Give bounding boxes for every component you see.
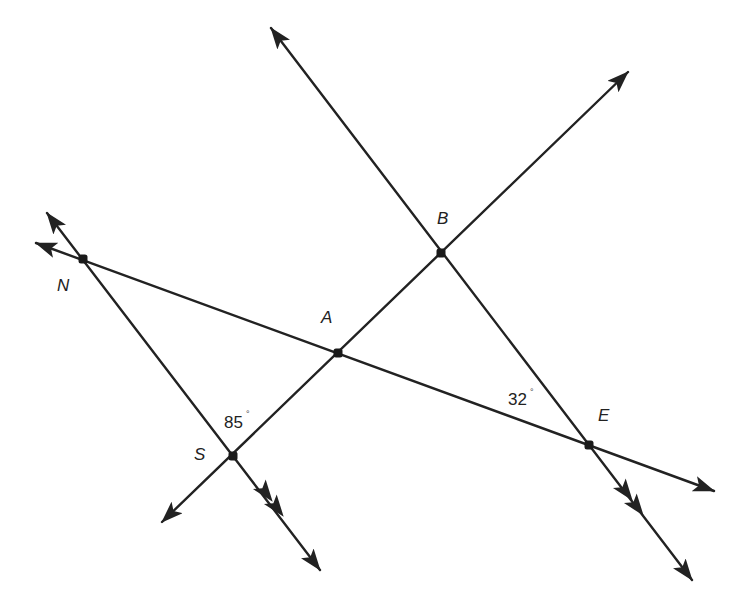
parallel-marks-NS [253, 479, 290, 521]
point-N [79, 255, 88, 264]
label-B: B [437, 209, 448, 228]
line-NE [36, 243, 714, 491]
point-B [437, 249, 446, 258]
point-A [334, 349, 343, 358]
label-E: E [598, 406, 610, 425]
line-NS [47, 213, 320, 570]
label-A: A [320, 308, 332, 327]
angle-label-85: 85 [224, 413, 243, 432]
point-S [229, 452, 238, 461]
label-S: S [194, 445, 206, 464]
point-E [585, 441, 594, 450]
label-N: N [57, 276, 70, 295]
geometry-diagram: N A B S E 85 ° 32 ° [0, 0, 740, 606]
degree-symbol: ° [246, 409, 250, 419]
degree-symbol: ° [530, 387, 534, 397]
angle-label-32: 32 [508, 390, 527, 409]
